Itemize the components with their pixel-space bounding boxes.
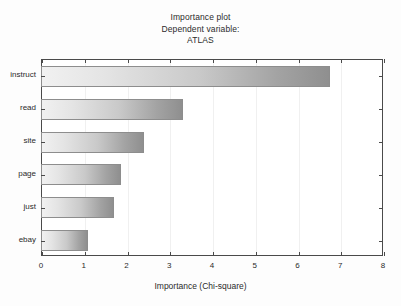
x-axis-tick [256,252,257,256]
x-axis-title: Importance (Chi-square) [0,281,401,291]
x-axis-tick-label: 7 [325,261,355,270]
y-axis-tick [379,109,383,110]
x-axis-tick [384,59,385,63]
x-axis-tick-label: 0 [26,261,56,270]
chart-subtitle-line: Dependent variable: [0,24,401,36]
x-axis-tick-label: 1 [69,261,99,270]
x-axis-tick [341,59,342,63]
x-axis-tick [128,252,129,256]
y-axis-tick [41,109,45,110]
x-axis-tick-label: 4 [197,261,227,270]
x-axis-tick [85,252,86,256]
x-axis-tick [85,59,86,63]
y-axis-tick-label-site: site [0,136,36,145]
x-axis-tick [128,59,129,63]
x-axis-tick [170,252,171,256]
y-axis-tick [41,175,45,176]
y-axis-tick [379,142,383,143]
y-axis-tick [379,175,383,176]
y-axis-tick [41,76,45,77]
bars-layer [42,60,382,255]
importance-plot-figure: Importance plot Dependent variable: ATLA… [0,0,401,306]
bar-just [41,197,114,218]
x-axis-tick-label: 5 [240,261,270,270]
bar-instruct [41,66,330,87]
x-axis-tick [170,59,171,63]
y-axis-tick-label-ebay: ebay [0,235,36,244]
x-axis-tick [42,252,43,256]
bar-read [41,99,183,120]
x-axis-tick [341,252,342,256]
plot-area [41,59,383,256]
x-axis-tick [384,252,385,256]
chart-dependent-variable-value: ATLAS [0,35,401,47]
x-axis-tick [299,252,300,256]
x-axis-tick [299,59,300,63]
x-axis-tick-label: 8 [368,261,398,270]
bar-page [41,164,121,185]
x-axis-tick-label: 6 [283,261,313,270]
y-axis-labels: instructreadsitepagejustebay [0,59,36,256]
chart-title-block: Importance plot Dependent variable: ATLA… [0,12,401,47]
y-axis-tick [379,208,383,209]
x-axis-tick [213,59,214,63]
y-axis-tick-label-just: just [0,202,36,211]
x-axis-tick [256,59,257,63]
x-axis-tick-label: 2 [112,261,142,270]
y-axis-tick [379,241,383,242]
y-axis-tick [41,208,45,209]
x-axis-tick [213,252,214,256]
chart-title-line: Importance plot [0,12,401,24]
y-axis-tick-label-page: page [0,169,36,178]
x-axis-tick [42,59,43,63]
y-axis-tick-label-read: read [0,103,36,112]
y-axis-tick [41,142,45,143]
bar-ebay [41,230,88,251]
y-axis-tick [41,241,45,242]
bar-site [41,132,144,153]
y-axis-tick [379,76,383,77]
x-axis-tick-label: 3 [154,261,184,270]
y-axis-tick-label-instruct: instruct [0,70,36,79]
